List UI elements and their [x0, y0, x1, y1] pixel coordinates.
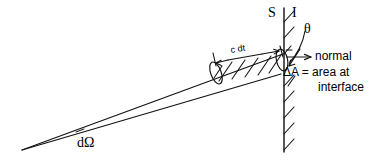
- label-area-line1: ΔA = area at: [283, 66, 349, 78]
- figure-canvas: S I θ c dt normal ΔA = area at interface…: [0, 0, 391, 163]
- cdt-dimension-arrows: [213, 46, 283, 66]
- label-medium-i: I: [292, 6, 297, 20]
- label-normal: normal: [315, 50, 352, 62]
- interface-hatching: [284, 11, 294, 150]
- label-angle-theta: θ: [304, 22, 311, 36]
- normal-arrow: [287, 54, 311, 59]
- radiation-cone: [22, 54, 283, 150]
- cone-upper-edge: [22, 54, 283, 150]
- label-area-line2: interface: [318, 81, 364, 93]
- cone-lower-edge: [22, 74, 281, 150]
- label-solid-angle-domega: dΩ: [77, 136, 94, 150]
- label-medium-s: S: [268, 6, 276, 20]
